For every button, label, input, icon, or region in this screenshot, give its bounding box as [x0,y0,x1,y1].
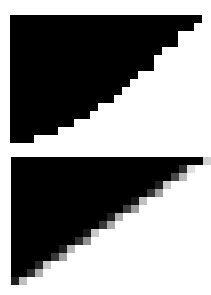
edge-pixel [139,197,147,205]
filled-row [10,55,154,63]
filled-row [11,181,163,189]
edge-pixel [19,277,27,285]
filled-row [10,23,194,31]
filled-row [10,95,114,103]
edge-pixel [75,237,83,245]
edge-pixel [163,181,171,189]
filled-row [11,157,203,165]
edge-pixel [123,205,131,213]
filled-row [11,213,115,221]
edge-pixel [59,253,67,261]
filled-row [10,63,154,71]
edge-pixel [179,165,187,173]
edge-pixel [67,245,75,253]
edge-pixel [171,173,179,181]
filled-row [11,173,179,181]
filled-row [10,87,122,95]
filled-row [11,197,139,205]
edge-pixel [35,261,43,269]
edge-pixel [107,221,115,229]
edge-pixel [107,213,115,221]
filled-row [11,221,107,229]
filled-row [10,15,202,23]
antialiased-triangle-panel [11,157,203,285]
edge-pixel [83,237,91,245]
edge-pixel [131,197,139,205]
filled-row [10,31,178,39]
filled-row [10,47,162,55]
filled-row [11,205,131,213]
filled-row [11,189,155,197]
filled-row [11,229,91,237]
edge-pixel [147,189,155,197]
filled-row [10,71,138,79]
edge-pixel [179,173,187,181]
edge-pixel [131,205,139,213]
filled-row [10,103,98,111]
edge-pixel [155,189,163,197]
filled-row [11,165,187,173]
edge-pixel [51,253,59,261]
edge-pixel [11,277,19,285]
edge-pixel [43,261,51,269]
edge-pixel [99,221,107,229]
edge-pixel [83,229,91,237]
filled-row [10,79,130,87]
filled-row [10,127,58,135]
filled-row [10,111,90,119]
filled-row [10,135,34,143]
edge-pixel [203,157,211,165]
filled-row [11,237,83,245]
edge-pixel [91,229,99,237]
filled-row [10,119,74,127]
edge-pixel [27,269,35,277]
aliased-triangle-panel [10,15,202,143]
edge-pixel [59,245,67,253]
filled-row [10,39,178,47]
edge-pixel [35,269,43,277]
edge-pixel [115,213,123,221]
edge-pixel [155,181,163,189]
edge-pixel [187,165,195,173]
